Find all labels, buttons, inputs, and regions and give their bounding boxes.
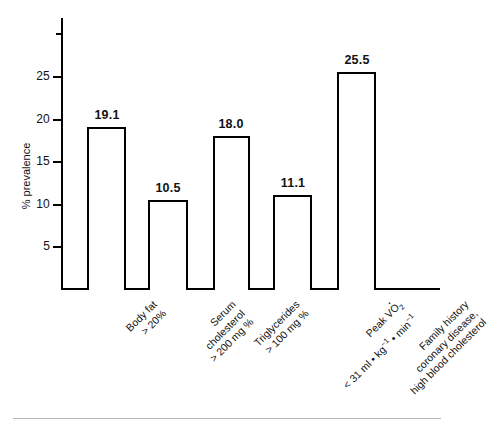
y-tick-5 (53, 246, 62, 248)
footer-divider (13, 418, 441, 419)
y-axis-line (61, 18, 63, 290)
bar-value-serum-cholesterol: 10.5 (138, 182, 198, 195)
bar-peak-vo2 (273, 195, 312, 290)
y-tick-label-10: 10 (10, 198, 50, 210)
y-tick-30-minor (56, 33, 62, 35)
bar-value-triglycerides: 18.0 (201, 118, 261, 131)
y-tick-20 (53, 119, 62, 121)
x-category-label-body-fat: Body fat > 20% (123, 298, 168, 343)
x-category-label-serum-cholesterol: Serum cholesterol > 200 mg % (189, 298, 255, 364)
bar-serum-cholesterol (148, 200, 188, 290)
y-axis-title: % prevalence (20, 126, 32, 226)
y-tick-label-5: 5 (10, 240, 50, 252)
bar-value-body-fat: 19.1 (77, 109, 137, 122)
y-tick-10 (53, 204, 62, 206)
bar-value-family-history: 25.5 (327, 54, 387, 67)
y-tick-label-20: 20 (10, 113, 50, 125)
y-tick-label-25: 25 (10, 70, 50, 82)
bar-value-peak-vo2: 11.1 (263, 177, 323, 190)
x-category-label-triglycerides: Triglycerides > 100 mg % (251, 298, 310, 357)
y-tick-label-15: 15 (10, 155, 50, 167)
bar-family-history (337, 72, 376, 290)
y-tick-15 (53, 161, 62, 163)
bar-triglycerides (213, 136, 250, 290)
y-tick-25 (53, 76, 62, 78)
bar-body-fat (87, 127, 126, 290)
